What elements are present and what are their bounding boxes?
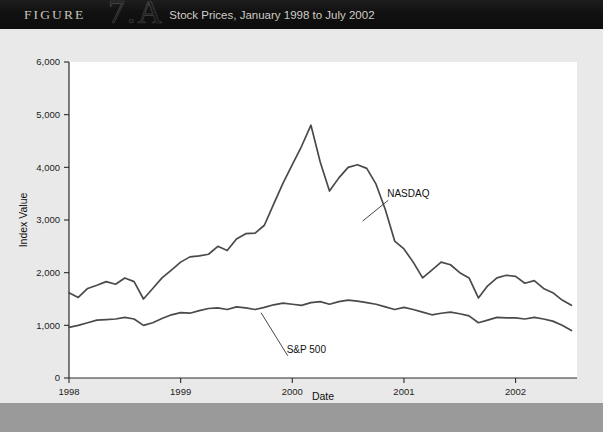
y-tick-label: 2,000 [36, 267, 60, 278]
figure-header-bar: FIGURE Stock Prices, January 1998 to Jul… [0, 0, 603, 29]
plot-background [69, 62, 577, 378]
x-tick-label: 2001 [393, 386, 414, 397]
x-tick-label: 2000 [282, 386, 303, 397]
x-tick-label: 2002 [505, 386, 526, 397]
y-tick-label: 3,000 [36, 214, 60, 225]
line-chart: 01,0002,0003,0004,0005,0006,000 19981999… [0, 29, 603, 403]
y-tick-label: 1,000 [36, 320, 60, 331]
y-tick-label: 5,000 [36, 109, 60, 120]
figure-header-content: FIGURE Stock Prices, January 1998 to Jul… [24, 0, 375, 29]
x-axis-title: Date [312, 390, 334, 402]
figure-container: FIGURE Stock Prices, January 1998 to Jul… [0, 0, 603, 432]
y-axis-title: Index Value [17, 193, 29, 248]
y-tick-label: 4,000 [36, 162, 60, 173]
y-axis-ticks: 01,0002,0003,0004,0005,0006,000 [36, 56, 69, 383]
y-tick-label: 6,000 [36, 56, 60, 67]
series-label-nasdaq: NASDAQ [387, 188, 429, 199]
figure-body: 01,0002,0003,0004,0005,0006,000 19981999… [0, 29, 603, 403]
figure-word-label: FIGURE [24, 7, 85, 23]
chart-area: 01,0002,0003,0004,0005,0006,000 19981999… [0, 29, 603, 403]
footer-band [0, 403, 603, 432]
figure-title: Stock Prices, January 1998 to July 2002 [169, 9, 374, 21]
series-label-s-p-500: S&P 500 [287, 344, 327, 355]
x-tick-label: 1999 [170, 386, 191, 397]
x-axis-ticks: 19981999200020012002 [58, 378, 526, 397]
y-tick-label: 0 [55, 372, 60, 383]
x-tick-label: 1998 [58, 386, 79, 397]
